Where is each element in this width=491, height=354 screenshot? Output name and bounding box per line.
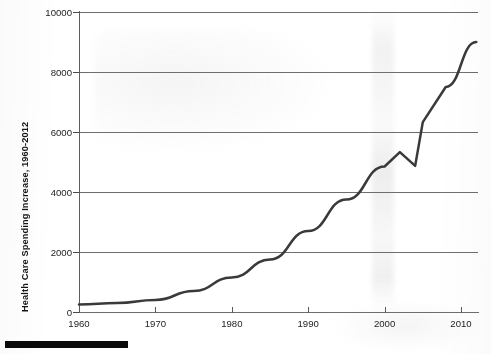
x-tick-label-1970: 1970 — [130, 318, 180, 329]
x-tick-mark-1980 — [232, 307, 233, 313]
x-tick-label-2010: 2010 — [436, 318, 486, 329]
x-tick-label-2000: 2000 — [360, 318, 410, 329]
x-tick-mark-2000 — [385, 307, 386, 313]
x-axis-tick-labels: 196019701980199020002010 — [0, 0, 491, 354]
x-tick-label-1960: 1960 — [54, 318, 104, 329]
page-footer-bar — [5, 341, 128, 348]
x-tick-mark-1990 — [308, 307, 309, 313]
x-tick-mark-1960 — [79, 307, 80, 313]
x-tick-mark-2010 — [461, 307, 462, 313]
x-tick-label-1990: 1990 — [283, 318, 333, 329]
x-tick-mark-1970 — [155, 307, 156, 313]
x-tick-label-1980: 1980 — [207, 318, 257, 329]
